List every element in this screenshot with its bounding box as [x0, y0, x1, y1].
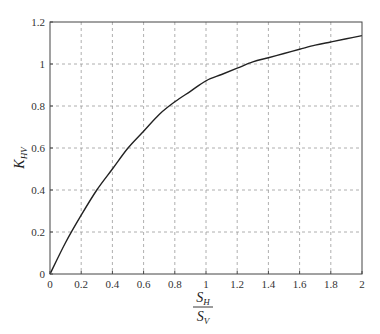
- x-tick-label: 2: [359, 278, 365, 290]
- svg-text:SH: SH: [196, 290, 210, 307]
- x-tick-label: 0: [47, 278, 53, 290]
- x-tick-label: 1: [203, 278, 209, 290]
- y-axis-label: KHV: [12, 146, 29, 170]
- x-tick-label: 0.2: [74, 278, 88, 290]
- x-tick-label: 1.4: [262, 278, 276, 290]
- grid-lines: [50, 22, 362, 274]
- x-axis-label-numerator: S: [196, 290, 203, 305]
- y-tick-label: 0.4: [31, 184, 45, 196]
- x-axis-label-numerator-sub: H: [202, 297, 210, 307]
- x-axis-label-denominator: S: [197, 309, 204, 324]
- chart: 00.20.40.60.811.21.41.61.82 00.20.40.60.…: [0, 0, 380, 334]
- y-axis-label-main: K: [12, 159, 27, 170]
- y-tick-label: 1: [40, 58, 46, 70]
- y-axis-label-sub: HV: [19, 146, 29, 160]
- x-tick-label: 0.8: [168, 278, 182, 290]
- x-axis-label-denominator-sub: V: [204, 316, 211, 326]
- svg-text:SV: SV: [197, 309, 211, 326]
- y-tick-label: 0.6: [31, 142, 45, 154]
- x-tick-label: 0.6: [137, 278, 151, 290]
- svg-text:KHV: KHV: [12, 146, 29, 170]
- x-tick-label: 0.4: [106, 278, 120, 290]
- y-tick-label: 1.2: [31, 16, 45, 28]
- x-tick-label: 1.8: [324, 278, 338, 290]
- x-axis-label: SH SV: [193, 290, 213, 326]
- y-tick-label: 0: [40, 268, 46, 280]
- y-tick-label: 0.8: [31, 100, 45, 112]
- x-tick-label: 1.2: [230, 278, 244, 290]
- y-tick-label: 0.2: [31, 226, 45, 238]
- x-tick-label: 1.6: [293, 278, 307, 290]
